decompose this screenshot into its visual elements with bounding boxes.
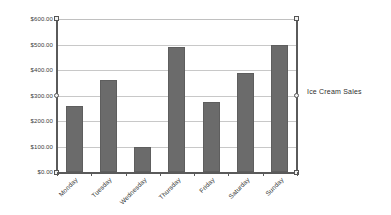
y-axis-tick-label: $200.00	[5, 118, 53, 124]
legend-entry-ice-cream-sales[interactable]: Ice Cream Sales	[307, 88, 362, 95]
x-axis-tick-label-sunday: Sunday	[264, 176, 285, 197]
x-axis-tick-mark	[126, 172, 127, 176]
x-axis-slot: Sunday	[263, 176, 297, 215]
x-axis-tick-label-friday: Friday	[198, 176, 216, 194]
x-axis-tick-mark	[263, 172, 264, 176]
bar-wednesday[interactable]	[134, 147, 151, 173]
bar-sunday[interactable]	[271, 45, 288, 173]
y-axis-tick-label: $100.00	[5, 144, 53, 150]
y-axis-tick-label: $0.00	[5, 169, 53, 175]
x-axis-slot: Monday	[57, 176, 91, 215]
x-axis-tick-label-saturday: Saturday	[227, 176, 251, 200]
x-axis-tick-mark	[160, 172, 161, 176]
x-axis-tick-label-tuesday: Tuesday	[90, 176, 113, 199]
bar-slot	[228, 19, 262, 172]
x-axis-slot: Friday	[194, 176, 228, 215]
bar-friday[interactable]	[203, 102, 220, 172]
y-axis-tick-label: $400.00	[5, 67, 53, 73]
handle-middle-left[interactable]	[54, 93, 59, 98]
x-axis-slot: Wednesday	[126, 176, 160, 215]
x-axis-tick-mark	[194, 172, 195, 176]
bar-slot	[194, 19, 228, 172]
x-axis-tick-mark	[228, 172, 229, 176]
bar-slot	[57, 19, 91, 172]
handle-top-right[interactable]	[294, 16, 299, 21]
y-axis-tick-label: $600.00	[5, 16, 53, 22]
x-axis-line	[57, 172, 298, 174]
y-axis-tick-label: $500.00	[5, 42, 53, 48]
bar-thursday[interactable]	[168, 47, 185, 172]
handle-top-left[interactable]	[54, 16, 59, 21]
bar-monday[interactable]	[66, 106, 83, 172]
bar-slot	[91, 19, 125, 172]
x-axis-labels: MondayTuesdayWednesdayThursdayFridaySatu…	[57, 176, 297, 215]
bar-series-ice-cream-sales[interactable]	[57, 19, 297, 172]
x-axis-tick-mark	[91, 172, 92, 176]
x-axis-tick-mark	[297, 172, 298, 176]
x-axis-slot: Tuesday	[91, 176, 125, 215]
x-axis-tick-label-thursday: Thursday	[157, 176, 182, 201]
x-axis-slot: Thursday	[160, 176, 194, 215]
bar-saturday[interactable]	[237, 73, 254, 172]
bar-tuesday[interactable]	[100, 80, 117, 172]
bar-slot	[126, 19, 160, 172]
bar-slot	[160, 19, 194, 172]
x-axis-slot: Saturday	[228, 176, 262, 215]
y-axis-labels: $0.00$100.00$200.00$300.00$400.00$500.00…	[0, 19, 53, 172]
chart-object[interactable]: $0.00$100.00$200.00$300.00$400.00$500.00…	[0, 0, 391, 215]
x-axis-tick-label-monday: Monday	[57, 176, 79, 198]
bar-slot	[263, 19, 297, 172]
y-axis-tick-label: $300.00	[5, 93, 53, 99]
x-axis-tick-mark	[57, 172, 58, 176]
handle-middle-right[interactable]	[294, 93, 299, 98]
